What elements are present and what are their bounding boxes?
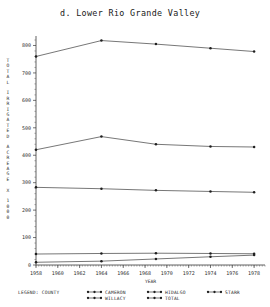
y-axis-title-char: T (7, 69, 10, 74)
series-hidalgo (35, 135, 256, 151)
legend-swatch-marker (153, 297, 155, 299)
y-axis-title-char: R (7, 101, 10, 106)
legend-title: LEGEND: COUNTY (18, 290, 60, 295)
legend-item: WILLACY (87, 296, 126, 301)
data-point (253, 146, 256, 149)
legend-label: WILLACY (105, 296, 126, 301)
y-axis-title-char: E (7, 161, 10, 166)
x-tick-label: 1960 (52, 270, 64, 276)
legend-item: HIDALGO (147, 290, 186, 295)
x-tick-label: 1966 (117, 270, 129, 276)
y-axis-title-char: I (7, 90, 10, 95)
chart-title: d. Lower Rio Grande Valley (60, 8, 200, 18)
series-total (35, 39, 256, 57)
y-axis-title-char: I (7, 107, 10, 112)
x-tick-label: 1972 (183, 270, 195, 276)
data-point (35, 253, 38, 256)
x-tick-label: 1968 (139, 270, 151, 276)
data-point (100, 252, 103, 255)
legend-item: TOTAL (147, 296, 180, 301)
legend-item: CAMERON (87, 290, 126, 295)
data-point (253, 254, 256, 257)
data-point (209, 256, 212, 259)
legend-label: STARR (225, 290, 240, 295)
data-point (209, 190, 212, 193)
data-point (35, 149, 38, 152)
legend-swatch-marker (93, 291, 95, 293)
data-point (155, 252, 158, 255)
legend-label: HIDALGO (165, 290, 186, 295)
data-point (209, 47, 212, 50)
y-axis-title-char: 0 (7, 204, 10, 209)
chart-figure: d. Lower Rio Grande Valley01002003004005… (0, 0, 270, 307)
data-point (209, 145, 212, 148)
y-axis-title-char: A (7, 74, 10, 79)
legend-swatch-marker (87, 297, 89, 299)
legend-swatch-marker (153, 291, 155, 293)
series-path (36, 253, 254, 254)
series-starr (35, 254, 256, 264)
y-axis-title-char: A (7, 117, 10, 122)
x-tick-label: 1962 (74, 270, 86, 276)
series-cameron (35, 186, 256, 193)
y-axis-title-char: T (7, 123, 10, 128)
data-point (253, 191, 256, 194)
data-point (100, 187, 103, 190)
x-tick-label: 1970 (161, 270, 173, 276)
data-point (35, 261, 38, 264)
legend-label: CAMERON (105, 290, 126, 295)
x-tick-label: 1958 (30, 270, 42, 276)
data-point (155, 189, 158, 192)
y-axis-title-char: 1 (7, 198, 10, 203)
legend-label: TOTAL (165, 296, 180, 301)
legend-swatch-marker (147, 297, 149, 299)
y-axis-title-char: D (7, 134, 10, 139)
y-axis-title-char: 0 (7, 215, 10, 220)
series-path (36, 137, 254, 150)
x-tick-label: 1976 (226, 270, 238, 276)
data-point (100, 260, 103, 263)
data-point (155, 258, 158, 261)
legend-swatch-marker (87, 291, 89, 293)
x-tick-label: 1974 (204, 270, 216, 276)
y-tick-label: 300 (22, 179, 31, 185)
legend-swatch-marker (160, 297, 162, 299)
x-axis-title: YEAR (145, 279, 156, 284)
data-point (100, 39, 103, 42)
y-axis-title-char: G (7, 112, 10, 117)
y-tick-label: 200 (22, 207, 31, 213)
y-axis-title-char: E (7, 128, 10, 133)
series-willacy (35, 252, 256, 255)
y-axis-title-char: E (7, 177, 10, 182)
y-axis-title-char: O (7, 63, 10, 68)
data-point (35, 55, 38, 58)
data-point (209, 252, 212, 255)
y-axis-title-char: C (7, 150, 10, 155)
series-path (36, 255, 254, 262)
y-tick-label: 0 (28, 262, 31, 268)
y-tick-label: 800 (22, 42, 31, 48)
data-point (253, 50, 256, 53)
y-tick-label: 100 (22, 234, 31, 240)
y-axis-title-char: G (7, 171, 10, 176)
x-tick-label: 1978 (248, 270, 260, 276)
y-axis-title-char: A (7, 144, 10, 149)
y-axis-title-char: R (7, 96, 10, 101)
x-tick-label: 1964 (95, 270, 107, 276)
data-point (155, 143, 158, 146)
data-point (100, 135, 103, 138)
series-path (36, 41, 254, 57)
y-tick-label: 400 (22, 152, 31, 158)
data-point (35, 186, 38, 189)
legend-swatch-marker (100, 291, 102, 293)
line-chart-svg: d. Lower Rio Grande Valley01002003004005… (0, 0, 270, 307)
series-path (36, 187, 254, 192)
y-axis-title-char: X (7, 188, 10, 193)
y-tick-label: 500 (22, 125, 31, 131)
legend-swatch-marker (213, 291, 215, 293)
legend-swatch-marker (147, 291, 149, 293)
y-axis-title-char: A (7, 166, 10, 171)
axis-lines (36, 36, 265, 265)
y-tick-label: 600 (22, 97, 31, 103)
data-point (155, 43, 158, 46)
